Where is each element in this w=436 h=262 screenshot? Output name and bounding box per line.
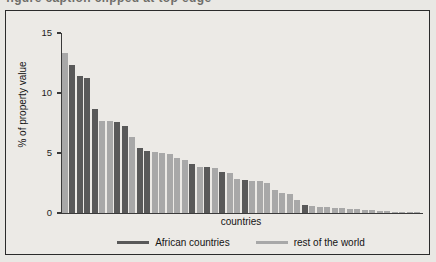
clipped-caption: figure caption clipped at top edge — [6, 0, 212, 5]
bar — [264, 183, 270, 213]
y-tick-label-15: 15 — [22, 28, 52, 38]
bar — [317, 207, 323, 213]
bar — [249, 181, 255, 213]
bar — [407, 212, 413, 213]
bar — [287, 194, 293, 213]
bar — [69, 65, 75, 213]
bar — [204, 167, 210, 213]
x-axis-title: countries — [61, 216, 421, 227]
bar — [122, 126, 128, 213]
bar — [77, 76, 83, 213]
bar — [114, 122, 120, 213]
bar — [62, 53, 68, 213]
bar — [234, 179, 240, 213]
bar — [242, 180, 248, 213]
legend-swatch-african — [117, 241, 149, 243]
y-tick-label-0: 0 — [22, 208, 52, 218]
bar — [332, 208, 338, 213]
y-tick-label-5: 5 — [22, 148, 52, 158]
plot-area — [61, 33, 421, 213]
clipped-top-text: figure caption clipped at top edge — [0, 0, 436, 9]
bar — [369, 210, 375, 213]
y-tick-label-10: 10 — [22, 88, 52, 98]
bar — [279, 193, 285, 213]
bar — [384, 211, 390, 213]
bar — [174, 158, 180, 213]
bar — [159, 153, 165, 213]
bar — [272, 190, 278, 213]
bar — [84, 78, 90, 213]
bar — [324, 207, 330, 213]
chart-frame: % of property value 051015 countries Afr… — [5, 10, 430, 255]
bar — [414, 212, 420, 213]
bar — [399, 212, 405, 213]
bar — [167, 154, 173, 213]
bar-series — [61, 33, 421, 213]
bar — [152, 152, 158, 213]
bar — [339, 208, 345, 213]
bar — [189, 164, 195, 213]
chart-legend: African countriesrest of the world — [61, 237, 421, 248]
bar — [377, 211, 383, 213]
bar — [392, 212, 398, 213]
bar — [347, 209, 353, 213]
bar — [309, 206, 315, 213]
bar — [354, 209, 360, 213]
legend-swatch-rest — [256, 241, 288, 243]
bar — [99, 121, 105, 213]
bar — [129, 137, 135, 213]
y-axis-tick-labels: 051015 — [20, 11, 52, 262]
bar — [227, 173, 233, 213]
bar — [137, 148, 143, 213]
legend-item-african[interactable]: African countries — [117, 237, 229, 248]
bar — [92, 109, 98, 213]
bar — [107, 121, 113, 213]
bar — [219, 172, 225, 213]
legend-label-rest: rest of the world — [294, 237, 365, 248]
bar — [197, 167, 203, 213]
bar — [144, 151, 150, 213]
legend-label-african: African countries — [155, 237, 229, 248]
bar — [212, 168, 218, 213]
bar — [182, 160, 188, 213]
bar — [362, 210, 368, 213]
legend-item-rest[interactable]: rest of the world — [256, 237, 365, 248]
bar — [294, 200, 300, 213]
bar — [302, 205, 308, 213]
bar — [257, 181, 263, 213]
